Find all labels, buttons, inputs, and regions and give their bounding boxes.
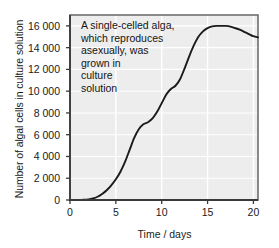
annotation-line: A single-celled alga, (81, 19, 201, 32)
y-axis-title: Number of algal cells in culture solutio… (13, 11, 25, 207)
x-axis-tick-label: 20 (238, 206, 268, 218)
annotation-line: asexually, was (81, 44, 201, 57)
x-axis-title: Time / days (70, 228, 259, 240)
annotation-line: which reproduces (81, 32, 201, 45)
x-axis-tick-label: 0 (55, 206, 85, 218)
algal-growth-chart: 02 0004 0006 0008 00010 00012 00014 0001… (0, 0, 279, 248)
x-axis-tick-label: 15 (193, 206, 223, 218)
x-axis-tick-label: 5 (101, 206, 131, 218)
annotation-line: solution (81, 82, 201, 95)
annotation-line: grown in (81, 57, 201, 70)
annotation-line: culture (81, 69, 201, 82)
x-axis-tick-label: 10 (147, 206, 177, 218)
experiment-description-annotation: A single-celled alga,which reproducesase… (81, 19, 201, 95)
